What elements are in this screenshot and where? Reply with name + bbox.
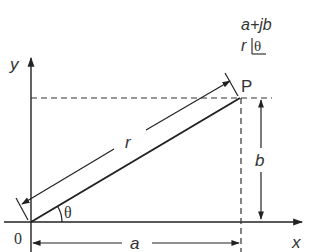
origin-label: 0 — [14, 230, 22, 247]
y-axis-label: y — [9, 55, 20, 74]
angle-arc — [58, 206, 62, 222]
vertical-component-label: b — [255, 151, 264, 170]
r-dimension-arrow-upper — [146, 81, 230, 130]
point-label: P — [241, 77, 252, 96]
x-axis-label: x — [291, 233, 301, 252]
polar-magnitude-label: r — [241, 37, 247, 54]
rectangular-form-label: a+jb — [241, 16, 272, 33]
magnitude-label: r — [125, 133, 132, 152]
polar-angle-label: θ — [254, 38, 261, 54]
horizontal-component-label: a — [130, 234, 139, 252]
r-dimension-tick-end — [225, 73, 238, 96]
angle-label: θ — [64, 204, 72, 221]
r-dimension-arrow-lower — [22, 149, 114, 204]
phasor-line — [31, 98, 240, 222]
phasor-diagram: y x 0 P r a b θ a+jb r θ — [0, 0, 309, 252]
